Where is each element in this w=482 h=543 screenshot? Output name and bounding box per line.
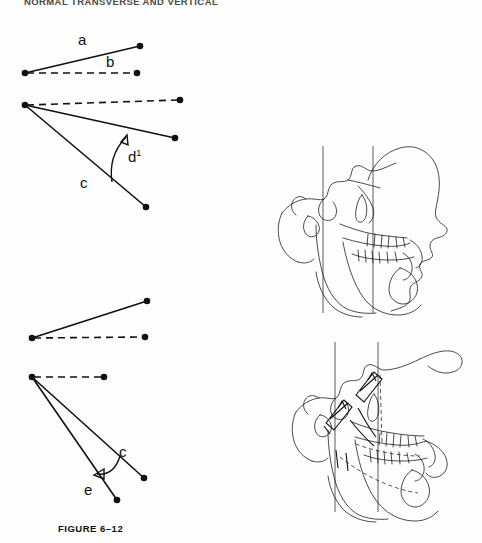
pterygomaxillary-fissure-lower [368,394,379,421]
node-dashed-end-3 [142,334,149,341]
mandible-ramus-upper [316,225,376,313]
node-vertex-2 [22,102,29,109]
node-vertex-4 [29,374,36,381]
mandible-upper [343,242,421,315]
node-vertex-1 [22,70,29,77]
node-a-end [137,43,144,50]
nasal-outline-lower [420,351,462,373]
diagram-3 [29,298,151,342]
label-d-prime: d1 [128,148,141,165]
figure-6-12-caption: FIGURE 6–12 [58,523,123,534]
node-d-prime-end [172,135,179,142]
pterygomaxillary-fissure-upper [356,195,367,222]
label-e: e [84,481,92,498]
node-dashed-end-4 [101,374,108,381]
porion-lower [292,412,312,461]
label-c: c [80,174,88,191]
soft-tissue-profile-lower [426,441,447,477]
measurement-markers-lower [324,372,382,471]
figure-6-13-panel: FIGURE 6–13 [240,10,482,543]
sella-turcica-upper [319,199,337,220]
label-a: a [78,31,87,48]
diagram-4: c e [29,374,148,504]
diagram-2: c d1 [22,97,184,211]
maxilla-lower [352,422,424,436]
node-c-end-4 [141,475,148,482]
segment-e-4 [32,377,117,500]
symphysis-upper [389,268,417,304]
mastoid-lower [312,458,328,462]
running-head: NORMAL TRANSVERSE AND VERTICAL [24,0,454,8]
node-e-end-4 [114,497,121,504]
segment-c-4 [32,377,144,478]
cephalometric-tracing-upper [278,146,447,317]
figure-6-13-drawing [240,10,482,543]
segment-d-prime [25,105,175,138]
cranial-base-lower [296,359,420,412]
diagram-1: a b [22,31,144,76]
segment-dashed-3 [34,337,143,338]
maxilla-upper [340,224,407,238]
figure-6-12-panel: a b c d1 [0,10,240,543]
palatal-plane-upper [343,238,410,246]
node-solid-end-3 [144,298,151,305]
label-d-base: d [128,148,136,165]
node-b-end [134,70,141,77]
symphysis-lower [401,470,429,507]
label-d-superscript: 1 [136,148,141,158]
segment-reference-dashed-2 [27,100,178,105]
mandibular-teeth-upper [352,250,414,280]
mastoid-upper [298,259,314,263]
zygomatic-arch-upper [348,180,380,188]
figure-6-12-drawing: a b c d1 [0,10,240,543]
segment-solid-3 [32,301,147,338]
mandibular-teeth-lower [364,450,427,481]
construction-dashed-occlusal-lower [356,444,420,456]
node-dashed-end-2 [177,97,184,104]
node-vertex-3 [29,335,36,342]
condyle-upper [304,216,320,237]
mandible-body-lower [355,440,438,521]
porion-upper [278,213,298,262]
node-c-end [143,204,150,211]
maxillary-teeth-lower [379,433,435,467]
textbook-page: NORMAL TRANSVERSE AND VERTICAL a b [0,0,482,543]
maxillary-teeth-upper [367,234,422,268]
label-b: b [106,53,114,70]
construction-dashed-vertical-lower [380,375,382,442]
soft-tissue-profile-upper [368,147,447,311]
arrowhead-up [121,135,128,145]
label-c2: c [119,443,127,460]
cephalometric-tracing-lower [292,342,462,522]
segment-a [25,46,140,73]
